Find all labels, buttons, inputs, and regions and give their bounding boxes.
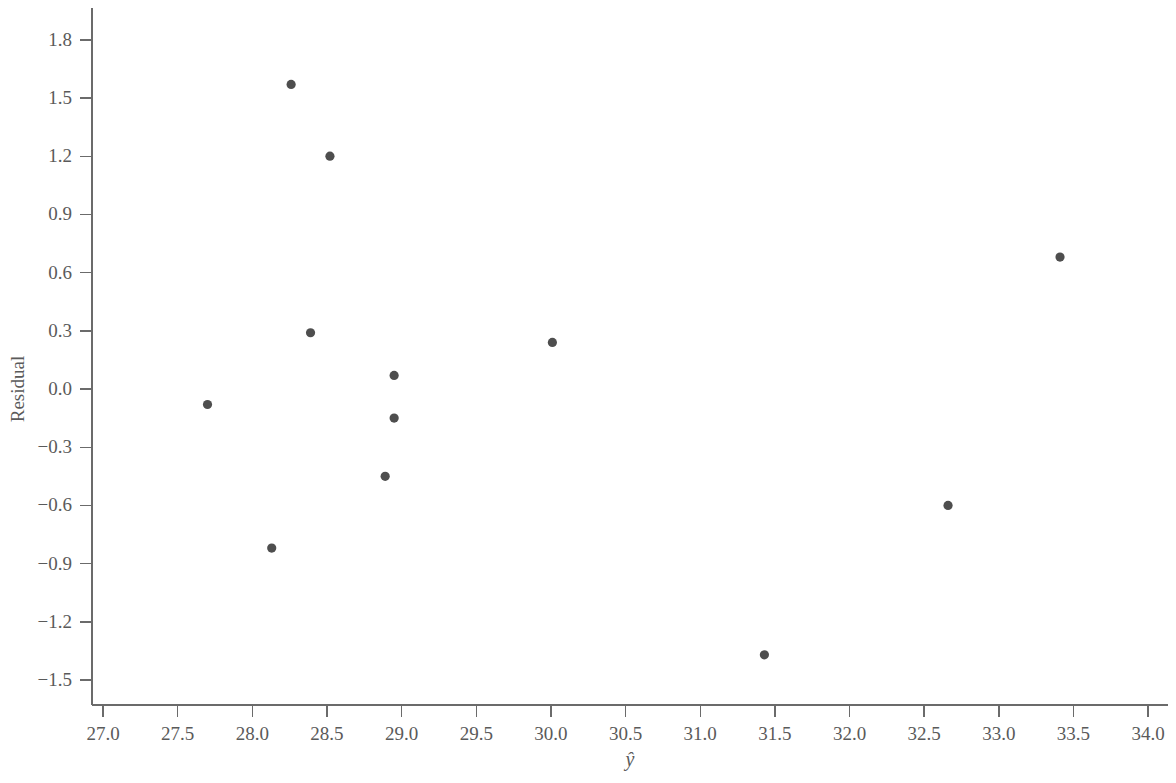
y-tick-label: −1.5 (38, 669, 72, 690)
data-point (390, 371, 399, 380)
data-point (548, 338, 557, 347)
x-tick-label: 32.0 (833, 723, 866, 744)
y-tick-label: 0.6 (48, 262, 72, 283)
x-tick-label: 33.0 (982, 723, 1015, 744)
x-tick-label: 29.5 (460, 723, 493, 744)
data-point (1055, 252, 1064, 261)
data-point (325, 152, 334, 161)
y-axis-title: Residual (7, 356, 28, 423)
y-tick-label: 0.3 (48, 320, 72, 341)
data-point (306, 328, 315, 337)
data-point (287, 80, 296, 89)
data-point (760, 650, 769, 659)
x-tick-label: 29.0 (385, 723, 418, 744)
scatter-plot-canvas: 1.81.51.20.90.60.30.0−0.3−0.6−0.9−1.2−1.… (0, 0, 1176, 783)
x-tick-label: 30.0 (534, 723, 567, 744)
y-tick-label: 1.8 (48, 29, 72, 50)
x-tick-label: 30.5 (609, 723, 642, 744)
residual-plot: 1.81.51.20.90.60.30.0−0.3−0.6−0.9−1.2−1.… (0, 0, 1176, 783)
y-axis-ticks: 1.81.51.20.90.60.30.0−0.3−0.6−0.9−1.2−1.… (38, 29, 92, 690)
x-tick-label: 27.0 (86, 723, 119, 744)
y-tick-label: 0.9 (48, 203, 72, 224)
x-tick-label: 28.5 (310, 723, 343, 744)
x-tick-label: 34.0 (1131, 723, 1164, 744)
x-tick-label: 27.5 (161, 723, 194, 744)
y-tick-label: −0.3 (38, 436, 72, 457)
data-point (381, 472, 390, 481)
x-tick-label: 33.5 (1057, 723, 1090, 744)
axes (92, 8, 1168, 705)
y-tick-label: 1.5 (48, 87, 72, 108)
data-points (203, 80, 1065, 660)
x-tick-label: 32.5 (908, 723, 941, 744)
data-point (943, 501, 952, 510)
y-tick-label: −0.9 (38, 553, 72, 574)
data-point (203, 400, 212, 409)
x-axis-ticks: 27.027.528.028.529.029.530.030.531.031.5… (86, 705, 1164, 744)
x-tick-label: 28.0 (236, 723, 269, 744)
x-axis-title: ŷ (624, 748, 635, 771)
y-tick-label: −1.2 (38, 611, 72, 632)
x-tick-label: 31.0 (684, 723, 717, 744)
y-tick-label: 1.2 (48, 145, 72, 166)
y-tick-label: 0.0 (48, 378, 72, 399)
data-point (267, 543, 276, 552)
y-tick-label: −0.6 (38, 494, 72, 515)
x-tick-label: 31.5 (758, 723, 791, 744)
data-point (390, 414, 399, 423)
